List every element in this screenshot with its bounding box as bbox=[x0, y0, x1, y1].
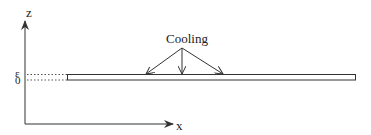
plate bbox=[68, 75, 356, 81]
z-axis-label: z bbox=[26, 5, 32, 20]
cooling-arrow-left bbox=[146, 48, 182, 74]
x-axis-label: x bbox=[176, 118, 183, 133]
cooling-label: Cooling bbox=[166, 31, 208, 46]
cooling-plate-diagram: z x ε 0 Cooling bbox=[0, 0, 371, 135]
cooling-arrow-right bbox=[182, 48, 223, 74]
zero-label: 0 bbox=[15, 74, 21, 86]
cooling-arrows bbox=[146, 48, 223, 74]
